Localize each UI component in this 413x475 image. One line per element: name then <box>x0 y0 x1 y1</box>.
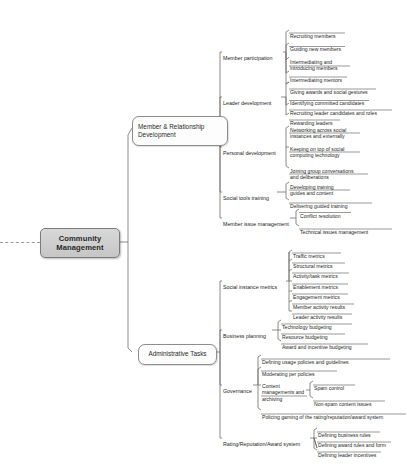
node-social-tools-training[interactable]: Social tools training <box>223 188 269 202</box>
branch-node-member-relationship-development[interactable]: Member & Relationship Development <box>132 116 228 146</box>
leaf-policing-gaming-of-rating-reputation-award-system[interactable]: Policing gaming of the rating/reputation… <box>262 407 383 420</box>
leaf-non-spam-content-issues[interactable]: Non-spam content issues <box>314 394 371 407</box>
node-member-issue-management[interactable]: Member issue management <box>223 214 289 228</box>
node-label: Policing gaming of the rating/reputation… <box>262 414 383 420</box>
node-label: Member issue management <box>223 221 289 227</box>
node-leader-development[interactable]: Leader development <box>223 93 271 107</box>
node-label: Social instance metrics <box>223 284 277 290</box>
node-label: Member participation <box>223 55 272 61</box>
leaf-guiding-new-members[interactable]: Guiding new members <box>290 39 341 52</box>
leaf-conflict-resolution[interactable]: Conflict resolution <box>300 206 341 219</box>
node-label: Conflict resolution <box>300 213 341 219</box>
node-label: Personal development <box>223 150 276 156</box>
node-social-instance-metrics[interactable]: Social instance metrics <box>223 277 277 291</box>
leaf-keeping-on-top-of-social-computing-technology[interactable]: Keeping on top of social computing techn… <box>290 139 344 159</box>
leaf-developing-training-guides-and-content[interactable]: Developing training guides and content <box>290 177 334 197</box>
leaf-award-and-incentive-budgeting[interactable]: Award and incentive budgeting <box>282 337 352 350</box>
node-business-planning[interactable]: Business planning <box>223 326 266 340</box>
node-rating-reputation-award-system[interactable]: Rating/Reputation/Award system <box>223 434 300 448</box>
node-label: Leader development <box>223 100 271 106</box>
branch-node-administrative-tasks[interactable]: Administrative Tasks <box>138 344 217 365</box>
node-label: Spam control <box>314 385 344 391</box>
leaf-spam-control[interactable]: Spam control <box>314 378 344 391</box>
node-label: Developing training guides and content <box>290 184 334 197</box>
node-label: Business planning <box>223 333 266 339</box>
root-node-label: Community Management <box>41 234 119 253</box>
root-node-community-management[interactable]: Community Management <box>40 228 120 258</box>
node-member-participation[interactable]: Member participation <box>223 48 272 62</box>
node-label: Social tools training <box>223 195 269 201</box>
branch-label: Member & Relationship Development <box>138 123 222 140</box>
node-governance[interactable]: Governance <box>223 381 252 395</box>
node-label: Non-spam content issues <box>314 401 371 407</box>
node-label: Recruiting members <box>290 33 336 39</box>
branch-label: Administrative Tasks <box>148 350 206 358</box>
leaf-technical-issues-management[interactable]: Technical issues management <box>300 222 368 235</box>
node-personal-development[interactable]: Personal development <box>223 143 276 157</box>
node-label: Content managements and archiving <box>262 383 304 402</box>
leaf-networking-across-social-instances[interactable]: Networking across social instances and e… <box>290 120 346 140</box>
node-label: Technical issues management <box>300 229 368 235</box>
node-label: Award and incentive budgeting <box>282 344 352 350</box>
root-incoming-dashed-connector <box>0 242 40 243</box>
leaf-defining-leader-incentives[interactable]: Defining leader incentives <box>318 445 376 458</box>
node-content-managements-and-archiving[interactable]: Content managements and archiving <box>262 376 304 403</box>
mindmap-canvas: Community Management Member & Relationsh… <box>0 0 413 475</box>
node-label: Defining leader incentives <box>318 452 376 458</box>
node-label: Rating/Reputation/Award system <box>223 441 300 447</box>
node-label: Governance <box>223 388 252 394</box>
node-label: Guiding new members <box>290 46 341 52</box>
node-label: Networking across social instances and e… <box>290 127 346 140</box>
node-label: Keeping on top of social computing techn… <box>290 146 344 159</box>
leaf-recruiting-members[interactable]: Recruiting members <box>290 26 336 39</box>
